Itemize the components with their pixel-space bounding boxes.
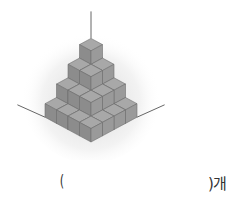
cube-pyramid-figure — [0, 0, 238, 160]
answer-close-paren-unit: )개 — [208, 172, 226, 193]
answer-blank[interactable] — [70, 172, 204, 192]
answer-open-paren: ( — [60, 172, 64, 190]
